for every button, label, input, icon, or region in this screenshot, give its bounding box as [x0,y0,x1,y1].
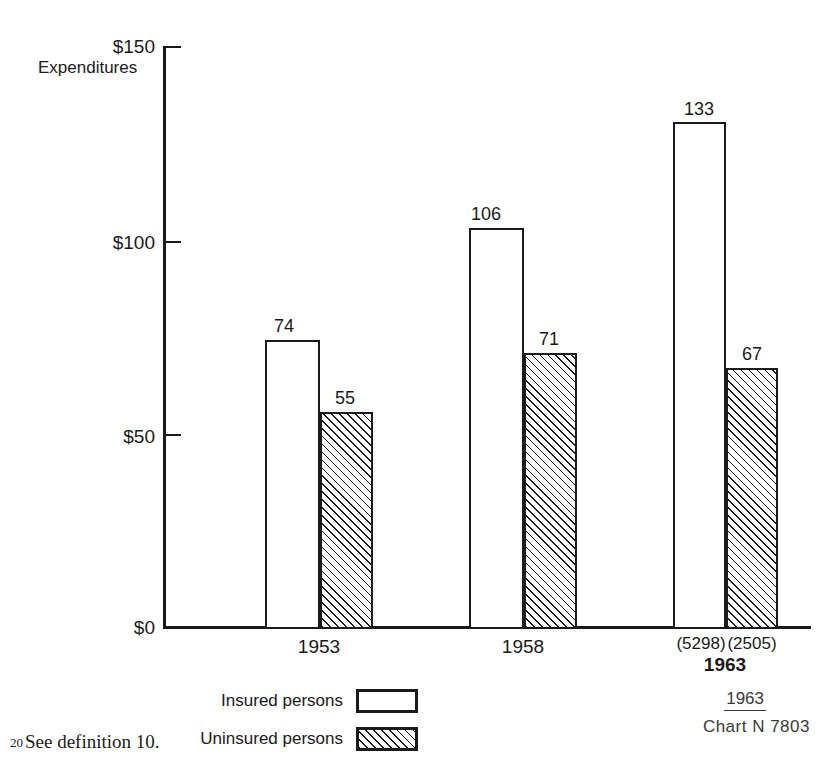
x-group-label-1958: 1958 [463,636,583,658]
tick-mark-100 [166,241,181,243]
legend-swatch-insured [356,689,418,713]
bar-value-1958-uninsured: 71 [510,330,588,348]
y-tick-50: $50 [0,427,155,446]
y-axis-title: Expenditures [38,58,137,78]
bar-1953-uninsured [320,412,373,629]
caption-chart-id: Chart N 7803 [703,716,810,737]
y-tick-150: $150 [0,37,155,56]
tick-mark-150 [166,46,181,48]
y-tick-0: $0 [0,618,155,637]
chart-caption: 1963 Chart N 7803 [703,688,810,737]
chart-page: Expenditures $150 $100 $50 $0 74 55 1953… [0,0,832,766]
bar-1953-insured [265,340,320,629]
y-tick-label-150: $150 [113,37,155,56]
bar-1963-uninsured [726,368,778,629]
footnote: 20See definition 10. [10,731,160,755]
x-group-label-1953: 1953 [259,636,379,658]
legend-label-insured: Insured persons [221,691,343,711]
caption-year-line: 1963 [703,688,810,711]
legend-item-uninsured: Uninsured persons [160,727,418,751]
bar-value-1963-uninsured: 67 [713,345,791,363]
bar-1963-insured [673,122,726,629]
y-tick-label-0: $0 [134,618,155,637]
x-group-label-1963: 1963 [665,654,785,676]
legend-label-uninsured: Uninsured persons [200,729,343,749]
bar-value-1953-uninsured: 55 [306,389,384,407]
bar-value-1958-insured: 106 [447,205,525,223]
y-tick-label-50: $50 [123,427,155,446]
footnote-marker: 20 [10,735,23,750]
bar-value-1963-insured: 133 [660,100,738,118]
caption-year: 1963 [724,688,766,711]
x-sublabel-1963-uninsured: (2505) [697,634,807,654]
tick-mark-50 [166,434,181,436]
legend-item-insured: Insured persons [160,689,418,713]
footnote-text: See definition 10. [25,731,160,752]
y-tick-100: $100 [0,233,155,252]
y-tick-label-100: $100 [113,233,155,252]
bar-1958-uninsured [524,353,577,629]
bar-1958-insured [469,228,524,629]
y-axis-line [163,46,166,629]
legend-swatch-uninsured [356,727,418,751]
bar-value-1953-insured: 74 [245,317,323,335]
